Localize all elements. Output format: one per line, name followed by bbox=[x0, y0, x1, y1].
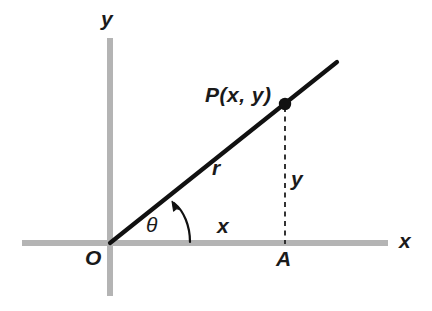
y-axis-label: y bbox=[101, 8, 113, 29]
point-p-marker-dot bbox=[279, 98, 291, 110]
radius-label: r bbox=[212, 157, 220, 178]
horizontal-leg-label: x bbox=[217, 215, 229, 236]
point-p-label: P(x, y) bbox=[205, 84, 272, 105]
vertical-leg-label: y bbox=[291, 168, 303, 189]
theta-angle-label: θ bbox=[146, 214, 157, 235]
origin-label: O bbox=[85, 247, 101, 268]
trig-diagram-figure: y x O A P(x, y) r θ x y bbox=[0, 0, 432, 311]
point-a-label: A bbox=[276, 248, 291, 269]
x-axis-label: x bbox=[399, 230, 411, 251]
angle-arc-arrowhead-icon bbox=[172, 201, 180, 211]
